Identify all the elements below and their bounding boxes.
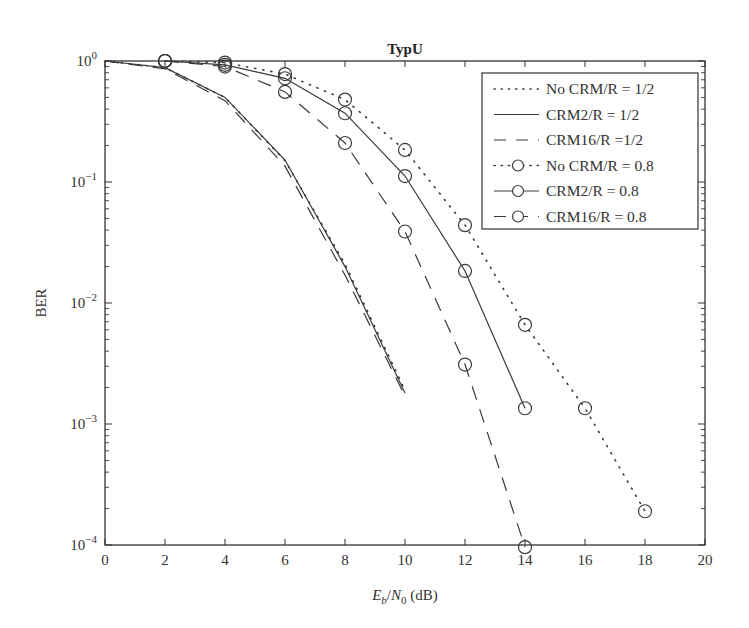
data-point-marker	[519, 402, 532, 415]
series-line	[165, 61, 525, 408]
x-tick-label: 14	[518, 552, 534, 568]
legend-label: CRM16/R =1/2	[546, 131, 643, 148]
series-line	[165, 61, 525, 547]
x-tick-label: 6	[281, 552, 289, 568]
x-tick-label: 16	[578, 552, 594, 568]
x-tick-label: 10	[398, 552, 413, 568]
data-point-marker	[579, 402, 592, 415]
x-tick-label: 4	[221, 552, 229, 568]
x-tick-label: 18	[638, 552, 653, 568]
series-0	[105, 61, 405, 390]
legend-marker-circle	[513, 186, 524, 197]
legend-label: CRM16/R = 0.8	[546, 208, 647, 225]
series-1	[105, 61, 405, 393]
data-point-marker	[399, 225, 412, 238]
series-4	[159, 55, 532, 415]
series-line	[105, 61, 405, 390]
x-tick-label: 20	[698, 552, 713, 568]
ber-chart: TypU 0246810121416182010010−110−210−310−…	[0, 0, 749, 628]
x-label-e: E	[371, 587, 381, 603]
x-axis-label: Eb/N0 (dB)	[371, 587, 438, 606]
y-tick-label: 10−3	[70, 412, 97, 432]
data-point-marker	[399, 143, 412, 156]
legend-label: No CRM/R = 0.8	[546, 157, 654, 174]
series-5	[159, 55, 532, 554]
legend: No CRM/R = 1/2CRM2/R = 1/2CRM16/R =1/2No…	[482, 73, 698, 229]
x-label-unit: (dB)	[407, 587, 438, 604]
legend-label: CRM2/R = 0.8	[546, 182, 639, 199]
x-tick-label: 0	[101, 552, 109, 568]
data-point-marker	[339, 93, 352, 106]
series-line	[105, 61, 405, 393]
chart-title: TypU	[387, 41, 423, 57]
x-tick-label: 2	[161, 552, 169, 568]
x-tick-label: 12	[458, 552, 473, 568]
y-tick-label: 10−4	[70, 533, 97, 553]
x-tick-label: 8	[341, 552, 349, 568]
y-axis-label: BER	[33, 288, 49, 317]
legend-label: CRM2/R = 1/2	[546, 106, 639, 123]
legend-marker-circle	[513, 160, 524, 171]
legend-marker-circle	[513, 211, 524, 222]
data-point-marker	[639, 505, 652, 518]
legend-label: No CRM/R = 1/2	[546, 80, 654, 97]
y-tick-label: 10−1	[70, 170, 97, 190]
y-tick-label: 10−2	[70, 291, 97, 311]
y-tick-label: 100	[77, 49, 98, 69]
